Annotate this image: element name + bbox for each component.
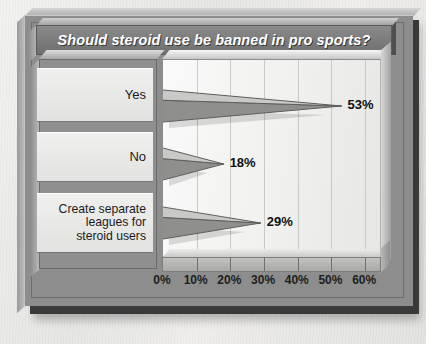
tick-20 bbox=[230, 258, 231, 271]
x-axis-label-10: 10% bbox=[184, 273, 208, 287]
chart-title: Should steroid use be banned in pro spor… bbox=[58, 32, 371, 48]
x-axis-label-50: 50% bbox=[318, 273, 342, 287]
x-axis-label-30: 30% bbox=[251, 273, 275, 287]
value-label-1: 18% bbox=[230, 155, 256, 170]
bar-0 bbox=[163, 90, 342, 128]
bar-2 bbox=[163, 207, 261, 245]
value-label-0: 53% bbox=[348, 97, 374, 112]
x-axis-label-40: 40% bbox=[285, 273, 309, 287]
plot-top-bevel bbox=[162, 50, 392, 59]
tick-40 bbox=[298, 258, 299, 271]
category-label-2: Create separateleagues forsteroid users bbox=[37, 193, 153, 253]
category-label-text-1: No bbox=[129, 150, 146, 164]
label-column-top-bevel bbox=[39, 50, 165, 59]
tick-60 bbox=[365, 258, 366, 271]
category-label-0: Yes bbox=[37, 68, 153, 122]
plot-right-wall bbox=[381, 42, 391, 268]
tick-50 bbox=[331, 258, 332, 271]
category-label-text-2: Create separateleagues forsteroid users bbox=[59, 203, 146, 244]
tick-10 bbox=[197, 258, 198, 271]
category-label-text-0: Yes bbox=[125, 88, 146, 102]
bar-1 bbox=[163, 148, 224, 186]
x-axis-label-60: 60% bbox=[352, 273, 376, 287]
chart-area: YesNoCreate separateleagues forsteroid u… bbox=[36, 58, 392, 298]
tick-30 bbox=[264, 258, 265, 271]
x-axis-labels: 0%10%20%30%40%50%60% bbox=[162, 273, 392, 291]
x-axis-label-0: 0% bbox=[153, 273, 170, 287]
category-label-1: No bbox=[37, 132, 153, 182]
x-axis-slab bbox=[162, 257, 381, 272]
x-axis-label-20: 20% bbox=[217, 273, 241, 287]
value-label-2: 29% bbox=[267, 214, 293, 229]
